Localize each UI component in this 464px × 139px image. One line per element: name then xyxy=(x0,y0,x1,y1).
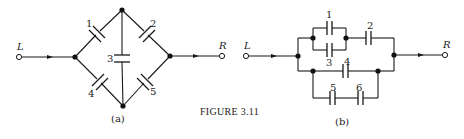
capacitor-label: 6 xyxy=(356,82,362,93)
junction-node xyxy=(310,68,315,73)
terminal-r-b xyxy=(442,52,447,57)
arrow-icon xyxy=(418,53,424,57)
capacitor-4-b: 4 xyxy=(313,56,378,78)
capacitor-label: 1 xyxy=(326,9,332,20)
sublabel-b: (b) xyxy=(335,116,349,127)
capacitor-label: 4 xyxy=(344,56,350,67)
terminal-label-l: L xyxy=(16,41,24,52)
junction-node xyxy=(120,103,125,108)
capacitor-label: 3 xyxy=(326,57,332,68)
capacitor-6-b: 6 xyxy=(356,82,378,105)
capacitor-label: 3 xyxy=(107,53,113,64)
capacitor-1-a: 1 xyxy=(75,10,122,57)
capacitor-3-b: 3 xyxy=(313,43,346,68)
terminal-l-a xyxy=(16,54,21,59)
capacitor-label: 2 xyxy=(367,20,373,31)
capacitor-5-a: 5 xyxy=(123,56,170,106)
capacitor-1-b: 1 xyxy=(313,9,346,35)
capacitor-5-b: 5 xyxy=(313,82,336,105)
junction-node xyxy=(72,54,77,59)
junction-node xyxy=(391,52,396,57)
junction-node xyxy=(295,53,300,58)
diagram-b: 1 3 2 4 xyxy=(243,9,451,127)
arrow-icon xyxy=(271,54,277,58)
diagram-a: 1 2 3 4 xyxy=(16,7,227,124)
capacitor-label: 5 xyxy=(150,86,156,97)
terminal-l-b xyxy=(243,53,248,58)
junction-node xyxy=(343,35,348,40)
junction-node xyxy=(310,35,315,40)
capacitor-2-b: 2 xyxy=(346,20,394,45)
capacitor-4-a: 4 xyxy=(75,57,123,106)
terminal-r-a xyxy=(219,53,224,58)
figure-caption: FIGURE 3.11 xyxy=(200,106,259,117)
terminal-label-r: R xyxy=(442,39,451,50)
arrow-icon xyxy=(47,55,53,59)
terminal-label-l: L xyxy=(243,40,251,51)
capacitor-label: 4 xyxy=(88,88,94,99)
sublabel-a: (a) xyxy=(111,113,125,124)
capacitor-label: 1 xyxy=(86,18,92,29)
figure-canvas: 1 2 3 4 xyxy=(0,0,464,139)
arrow-icon xyxy=(193,54,199,58)
capacitor-3-a: 3 xyxy=(107,10,130,106)
junction-node xyxy=(375,68,380,73)
junction-node xyxy=(167,53,172,58)
terminal-label-r: R xyxy=(218,40,227,51)
capacitor-label: 5 xyxy=(330,82,336,93)
junction-node xyxy=(119,7,124,12)
capacitor-label: 2 xyxy=(150,18,156,29)
capacitor-2-a: 2 xyxy=(122,10,170,56)
